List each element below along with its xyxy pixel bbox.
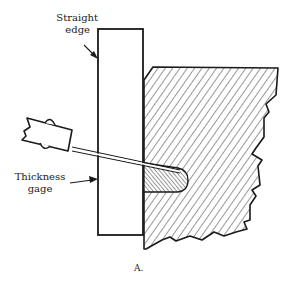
straight-edge	[98, 29, 143, 235]
diagram-canvas	[0, 0, 295, 281]
thickness-gage-leader-arrow	[70, 176, 98, 183]
figure-caption: A.	[134, 262, 143, 274]
straight-edge-label-line1: Straight	[36, 12, 98, 24]
straight-edge-label: Straight edge	[36, 12, 98, 36]
thickness-gage-label-line1: Thickness	[10, 171, 70, 183]
workpiece-surface	[144, 67, 278, 249]
thickness-gage-label: Thickness gage	[10, 171, 70, 195]
diagram-figure: Straight edge Thickness gage A.	[0, 0, 295, 281]
thickness-gage-label-line2: gage	[10, 183, 70, 195]
straight-edge-leader-arrow	[84, 45, 98, 59]
straight-edge-label-line2: edge	[36, 24, 98, 36]
